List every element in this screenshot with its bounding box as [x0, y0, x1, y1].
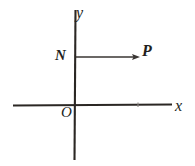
point-n-label: N	[55, 48, 66, 63]
x-axis-label: x	[175, 98, 182, 114]
point-p-label: P	[142, 43, 152, 59]
origin-label: O	[61, 105, 72, 120]
y-axis-label: y	[76, 5, 83, 21]
figure-canvas	[0, 0, 195, 166]
x-axis-line	[13, 105, 172, 106]
coordinate-figure: y x O N P	[0, 0, 195, 166]
y-axis-line	[75, 10, 76, 160]
